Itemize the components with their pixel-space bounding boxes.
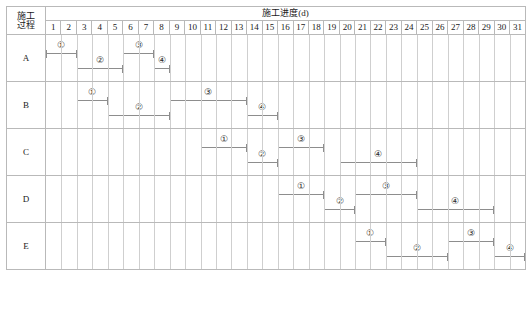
day-gridline	[510, 223, 511, 269]
lane-cell-b: ①②③④	[46, 82, 526, 129]
day-gridline	[401, 129, 402, 175]
day-gridline	[494, 82, 495, 128]
day-header-21: 21	[355, 21, 370, 35]
day-gridline	[216, 35, 217, 81]
day-gridline	[123, 82, 124, 128]
day-gridline	[108, 223, 109, 269]
day-gridline	[185, 35, 186, 81]
day-gridline	[278, 82, 279, 128]
day-gridline	[262, 223, 263, 269]
day-gridline	[355, 82, 356, 128]
day-gridline	[479, 176, 480, 222]
day-gridline	[417, 176, 418, 222]
day-gridline	[92, 129, 93, 175]
lane-holder: ①②③④	[46, 176, 525, 222]
day-header-7: 7	[138, 21, 153, 35]
day-gridline	[231, 176, 232, 222]
day-gridline	[494, 35, 495, 81]
lane-holder: ①②③④	[46, 129, 525, 175]
gantt-bar-c-1: ①	[201, 147, 247, 148]
day-gridline	[463, 176, 464, 222]
gantt-bar-a-2: ②	[77, 68, 123, 69]
process-label-b: B	[7, 82, 46, 129]
day-gridline	[463, 223, 464, 269]
day-gridline	[510, 35, 511, 81]
table-row: C①②③④	[7, 129, 526, 176]
day-gridline	[262, 176, 263, 222]
day-gridline	[154, 223, 155, 269]
day-gridline	[201, 82, 202, 128]
day-gridline	[262, 35, 263, 81]
bar-label: ④	[340, 150, 417, 159]
day-header-29: 29	[479, 21, 494, 35]
process-label-a: A	[7, 35, 46, 82]
table-body: A①②③④B①②③④C①②③④D①②③④E①②③④	[7, 35, 526, 270]
day-gridline	[432, 82, 433, 128]
day-gridline	[417, 129, 418, 175]
schedule-title-header: 施工进度(d)	[46, 7, 526, 21]
day-gridline	[340, 35, 341, 81]
process-label-c: C	[7, 129, 46, 176]
day-gridline	[370, 129, 371, 175]
day-header-17: 17	[293, 21, 308, 35]
day-gridline	[262, 82, 263, 128]
bar-label: ④	[154, 56, 169, 65]
day-gridline	[324, 82, 325, 128]
day-gridline	[170, 129, 171, 175]
bar-label: ④	[417, 197, 494, 206]
day-gridline	[231, 82, 232, 128]
day-gridline	[61, 129, 62, 175]
day-header-6: 6	[123, 21, 138, 35]
day-number-row: 1234567891011121314151617181920212223242…	[7, 21, 526, 35]
day-gridline	[247, 35, 248, 81]
day-gridline	[448, 129, 449, 175]
day-gridline	[61, 176, 62, 222]
day-gridline	[123, 129, 124, 175]
day-gridline	[247, 176, 248, 222]
day-gridline	[510, 82, 511, 128]
day-gridline	[463, 82, 464, 128]
day-gridline	[355, 223, 356, 269]
table-row: A①②③④	[7, 35, 526, 82]
day-gridline	[139, 35, 140, 81]
day-gridline	[231, 35, 232, 81]
day-gridline	[309, 176, 310, 222]
day-gridline	[355, 129, 356, 175]
day-header-27: 27	[448, 21, 463, 35]
day-gridline	[123, 223, 124, 269]
day-header-25: 25	[417, 21, 432, 35]
gantt-bar-d-1: ①	[278, 194, 324, 195]
day-gridline	[432, 176, 433, 222]
day-gridline	[432, 223, 433, 269]
day-header-23: 23	[386, 21, 401, 35]
day-gridline	[61, 82, 62, 128]
day-gridline	[92, 176, 93, 222]
day-gridline	[170, 82, 171, 128]
bar-start-tick	[46, 50, 47, 58]
day-gridline	[247, 129, 248, 175]
day-gridline	[401, 176, 402, 222]
day-gridline	[401, 223, 402, 269]
header-title-row: 施工 过程 施工进度(d)	[7, 7, 526, 21]
day-gridline	[154, 129, 155, 175]
process-header-line2: 过程	[7, 21, 45, 30]
day-gridline	[340, 82, 341, 128]
day-gridline	[247, 82, 248, 128]
day-gridline	[108, 129, 109, 175]
day-gridline	[231, 129, 232, 175]
day-gridline	[123, 176, 124, 222]
day-gridline	[201, 35, 202, 81]
day-gridline	[293, 129, 294, 175]
day-header-4: 4	[92, 21, 107, 35]
day-gridline	[432, 129, 433, 175]
day-gridline	[154, 82, 155, 128]
day-gridline	[432, 35, 433, 81]
day-gridline	[448, 82, 449, 128]
day-gridline	[139, 129, 140, 175]
day-header-28: 28	[463, 21, 478, 35]
day-gridline	[510, 129, 511, 175]
bar-label: ③	[278, 135, 324, 144]
day-gridline	[139, 223, 140, 269]
day-gridline	[309, 129, 310, 175]
day-gridline	[448, 35, 449, 81]
